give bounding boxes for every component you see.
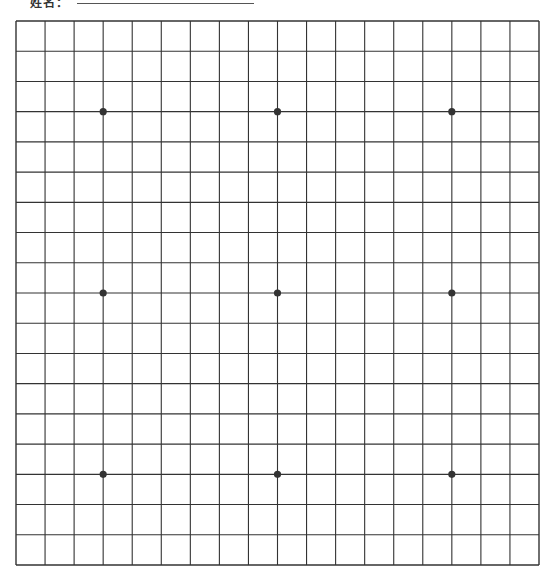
star-point-icon	[448, 289, 455, 296]
star-point-icon	[274, 289, 281, 296]
star-point-icon	[274, 108, 281, 115]
star-point-icon	[100, 289, 107, 296]
star-point-icon	[100, 471, 107, 478]
star-point-icon	[274, 471, 281, 478]
star-point-icon	[448, 471, 455, 478]
star-point-icon	[100, 108, 107, 115]
star-point-icon	[448, 108, 455, 115]
go-board[interactable]	[0, 0, 554, 580]
